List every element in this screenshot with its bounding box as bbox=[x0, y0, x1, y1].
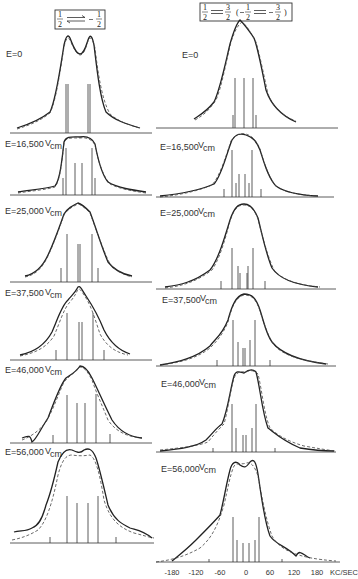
x-axis-unit: KC/SEC bbox=[330, 568, 358, 577]
x-axis: -180 -120 -60 0 60 120 180 KC/SEC bbox=[164, 568, 358, 577]
svg-text:3: 3 bbox=[276, 3, 280, 12]
svg-text:E=25,000: E=25,000 bbox=[160, 208, 199, 218]
svg-text:cm: cm bbox=[50, 290, 62, 300]
svg-text:2: 2 bbox=[276, 13, 280, 22]
svg-text:E=37,500: E=37,500 bbox=[5, 288, 44, 298]
svg-text:2: 2 bbox=[246, 13, 250, 22]
svg-text:E=46,000: E=46,000 bbox=[5, 365, 44, 375]
spectra-figure: 1 2 1 2 1 2 3 2 ( 1 2 3 2 ) E=0 bbox=[0, 0, 358, 579]
panel-right-e16500: E=16,500 V cm bbox=[156, 134, 334, 197]
svg-text:1: 1 bbox=[97, 10, 101, 19]
svg-text:1: 1 bbox=[203, 3, 207, 12]
svg-text:cm: cm bbox=[203, 143, 215, 153]
panel-left-e46000: E=46,000 V cm bbox=[5, 364, 152, 443]
panel-right-e56000: E=56,000 V cm bbox=[156, 461, 340, 563]
svg-text:cm: cm bbox=[203, 209, 215, 219]
svg-text:2: 2 bbox=[97, 20, 101, 29]
svg-text:E=0: E=0 bbox=[182, 50, 198, 60]
panel-right-e46000: E=46,000 V cm bbox=[156, 370, 336, 452]
svg-text:120: 120 bbox=[288, 568, 301, 577]
svg-text:(: ( bbox=[236, 8, 239, 17]
panel-left-e0: E=0 bbox=[6, 36, 152, 133]
svg-text:E=46,000: E=46,000 bbox=[161, 379, 200, 389]
svg-text:-180: -180 bbox=[164, 568, 179, 577]
svg-text:): ) bbox=[284, 8, 287, 17]
svg-text:E=16,500: E=16,500 bbox=[5, 139, 44, 149]
svg-text:-60: -60 bbox=[215, 568, 226, 577]
svg-text:cm: cm bbox=[204, 380, 216, 390]
svg-text:cm: cm bbox=[50, 208, 62, 218]
svg-text:cm: cm bbox=[50, 367, 62, 377]
svg-text:3: 3 bbox=[226, 3, 230, 12]
svg-text:E=37,500: E=37,500 bbox=[162, 295, 201, 305]
panel-right-e0: E=0 bbox=[156, 20, 338, 128]
svg-text:E=56,000: E=56,000 bbox=[5, 447, 44, 457]
panel-left-e25000: E=25,000 V cm bbox=[5, 203, 152, 282]
right-column-header: 1 2 3 2 ( 1 2 3 2 ) bbox=[200, 3, 292, 22]
svg-text:cm: cm bbox=[204, 465, 216, 475]
svg-text:180: 180 bbox=[311, 568, 324, 577]
svg-text:1: 1 bbox=[58, 10, 62, 19]
left-column-header: 1 2 1 2 bbox=[55, 10, 105, 29]
svg-text:2: 2 bbox=[226, 13, 230, 22]
svg-text:-120: -120 bbox=[188, 568, 203, 577]
panel-right-e37500: E=37,500 V cm bbox=[156, 293, 336, 366]
svg-text:E=16,500: E=16,500 bbox=[160, 142, 199, 152]
panel-left-e37500: E=37,500 V cm bbox=[5, 287, 152, 360]
svg-text:cm: cm bbox=[50, 141, 62, 151]
panel-right-e25000: E=25,000 V cm bbox=[156, 204, 336, 289]
svg-text:1: 1 bbox=[246, 3, 250, 12]
svg-text:cm: cm bbox=[205, 296, 217, 306]
svg-text:0: 0 bbox=[244, 568, 248, 577]
panel-left-e16500: E=16,500 V cm bbox=[5, 137, 152, 195]
svg-text:2: 2 bbox=[58, 20, 62, 29]
field-label: E=0 bbox=[6, 49, 22, 59]
svg-text:60: 60 bbox=[266, 568, 274, 577]
svg-text:E=56,000: E=56,000 bbox=[161, 464, 200, 474]
svg-text:2: 2 bbox=[203, 13, 207, 22]
svg-text:E=25,000: E=25,000 bbox=[5, 206, 44, 216]
panel-left-e56000: E=56,000 V cm bbox=[5, 446, 154, 543]
